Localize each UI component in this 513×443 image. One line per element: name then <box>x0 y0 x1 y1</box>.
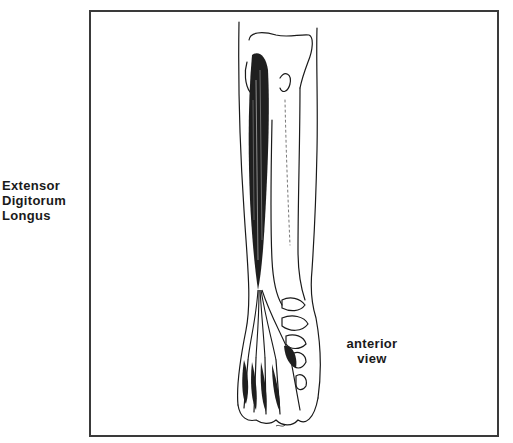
artist-signature <box>276 425 285 426</box>
leg-outline-right <box>311 28 320 398</box>
view-label-line-1: anterior <box>343 336 401 351</box>
extensor-digitorum-longus-muscle <box>249 53 269 290</box>
view-label-line-2: view <box>343 351 401 366</box>
leg-anatomy-illustration <box>0 0 513 443</box>
extensor-tendons <box>248 290 290 360</box>
foot-shading <box>242 346 296 412</box>
leg-outline-left <box>237 22 248 405</box>
view-label: anterior view <box>343 336 401 366</box>
